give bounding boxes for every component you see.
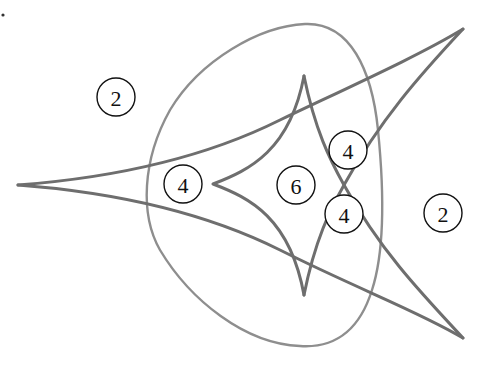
region-label-outside-right: 2 xyxy=(424,194,462,232)
region-label-lower-crossing: 4 xyxy=(325,195,363,233)
svg-text:4: 4 xyxy=(178,173,189,198)
region-label-left-inside-oval: 4 xyxy=(164,165,202,203)
svg-text:4: 4 xyxy=(339,203,350,228)
stray-dot xyxy=(1,13,4,16)
outer-curve-right-arm-upper xyxy=(304,29,463,295)
svg-text:4: 4 xyxy=(343,139,354,164)
caustic-diagram: 2 4 6 4 4 2 xyxy=(0,0,493,370)
svg-text:2: 2 xyxy=(111,86,122,111)
region-label-inside-deltoid: 6 xyxy=(277,166,315,204)
svg-text:6: 6 xyxy=(291,174,302,199)
svg-text:2: 2 xyxy=(438,202,449,227)
region-label-outside-top-left: 2 xyxy=(97,78,135,116)
region-label-upper-crossing: 4 xyxy=(329,131,367,169)
